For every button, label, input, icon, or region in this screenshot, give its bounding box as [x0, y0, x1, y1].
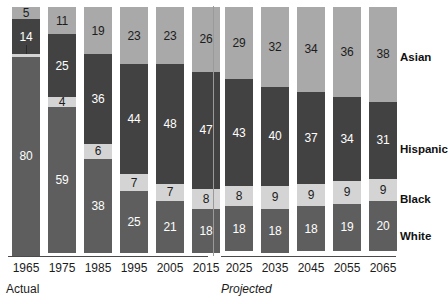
segment-hispanic-2005: 48: [156, 64, 184, 184]
segment-asian-2025: 29: [225, 7, 253, 79]
bar-2065: 3831920: [369, 7, 397, 256]
segment-white-1995: 25: [120, 191, 148, 253]
segment-hispanic-2045: 37: [297, 92, 325, 184]
x-tick-2065: 2065: [363, 261, 403, 275]
value-label: 25: [56, 60, 69, 72]
segment-hispanic-1995: 44: [120, 64, 148, 174]
value-label: 43: [233, 127, 246, 139]
value-label: 7: [167, 186, 173, 198]
actual-projected-divider: [213, 6, 214, 256]
x-tick-1965: 1965: [6, 261, 46, 275]
value-label: 23: [164, 30, 177, 42]
value-label: 20: [377, 220, 390, 232]
segment-asian-1995: 23: [120, 7, 148, 64]
value-label: 18: [233, 223, 246, 235]
segment-asian-2055: 36: [333, 7, 361, 97]
segment-asian-2065: 38: [369, 7, 397, 102]
value-label: 19: [341, 221, 354, 233]
value-label: 18: [305, 223, 318, 235]
section-label-projected: Projected: [221, 282, 272, 296]
segment-hispanic-2055: 34: [333, 97, 361, 182]
segment-white-1985: 38: [84, 159, 112, 254]
x-tick-1995: 1995: [114, 261, 154, 275]
segment-white-2055: 19: [333, 204, 361, 251]
x-tick-1985: 1985: [78, 261, 118, 275]
segment-black-2045: 9: [297, 184, 325, 206]
legend-item-black: Black: [400, 193, 431, 205]
legend-item-asian: Asian: [400, 51, 431, 63]
bar-2045: 3437918: [297, 7, 325, 256]
value-label: 26: [200, 33, 213, 45]
segment-black-2025: 8: [225, 186, 253, 206]
value-label: 14: [20, 31, 33, 43]
value-label: 36: [341, 46, 354, 58]
plot-area: 5148011254591936638234472523487212647818…: [0, 0, 448, 304]
value-label: 9: [344, 186, 350, 198]
segment-white-2045: 18: [297, 206, 325, 251]
value-label: 47: [200, 124, 213, 136]
stacked-bar-chart: 5148011254591936638234472523487212647818…: [0, 0, 448, 304]
x-tick-2035: 2035: [255, 261, 295, 275]
x-tick-2025: 2025: [219, 261, 259, 275]
value-label: 40: [269, 130, 282, 142]
value-label: 25: [128, 216, 141, 228]
segment-black-2055: 9: [333, 181, 361, 203]
segment-asian-1965: 5: [12, 7, 40, 19]
segment-hispanic-1975: 25: [48, 34, 76, 96]
value-label: 9: [380, 184, 386, 196]
segment-white-1965: 80: [12, 57, 40, 256]
value-label: 23: [128, 30, 141, 42]
value-label: 38: [377, 48, 390, 60]
value-label: 9: [272, 191, 278, 203]
bar-2035: 3240918: [261, 7, 289, 256]
value-label: 38: [92, 200, 105, 212]
segment-asian-1975: 11: [48, 7, 76, 34]
segment-asian-2045: 34: [297, 7, 325, 92]
value-label: 5: [23, 7, 29, 19]
segment-black-2015: 8: [192, 189, 220, 209]
value-label: 8: [203, 193, 209, 205]
segment-black-1995: 7: [120, 174, 148, 191]
segment-black-1985: 6: [84, 144, 112, 159]
value-label: 7: [131, 177, 137, 189]
value-label: 48: [164, 118, 177, 130]
segment-black-2005: 7: [156, 184, 184, 201]
segment-white-2025: 18: [225, 206, 253, 251]
bar-2055: 3634919: [333, 7, 361, 256]
x-axis-line-projected: [221, 256, 396, 257]
bar-1975: 1125459: [48, 7, 76, 256]
segment-white-2005: 21: [156, 201, 184, 253]
x-axis-line-actual: [8, 256, 208, 257]
segment-white-2035: 18: [261, 209, 289, 254]
segment-white-1975: 59: [48, 107, 76, 254]
segment-black-1975: 4: [48, 97, 76, 107]
value-label: 29: [233, 37, 246, 49]
value-label: 21: [164, 221, 177, 233]
segment-asian-2005: 23: [156, 7, 184, 64]
value-label: 59: [56, 174, 69, 186]
bar-1965: 51480: [12, 7, 40, 256]
segment-asian-2015: 26: [192, 7, 220, 72]
segment-black-2065: 9: [369, 179, 397, 201]
segment-hispanic-1985: 36: [84, 54, 112, 144]
segment-hispanic-2035: 40: [261, 87, 289, 187]
value-label: 9: [308, 189, 314, 201]
x-tick-2005: 2005: [150, 261, 190, 275]
segment-hispanic-2065: 31: [369, 102, 397, 179]
legend-item-white: White: [400, 230, 431, 242]
segment-black-2035: 9: [261, 186, 289, 208]
section-label-actual: Actual: [6, 282, 39, 296]
value-label: 80: [20, 150, 33, 162]
segment-white-2015: 18: [192, 209, 220, 254]
value-label: 18: [269, 225, 282, 237]
x-tick-2045: 2045: [291, 261, 331, 275]
legend-item-hispanic: Hispanic: [400, 143, 448, 155]
segment-hispanic-2015: 47: [192, 72, 220, 189]
value-label: 18: [200, 225, 213, 237]
bar-2015: 2647818: [192, 7, 220, 256]
segment-white-2065: 20: [369, 201, 397, 251]
value-label: 37: [305, 132, 318, 144]
leader-tick-icon: [26, 45, 27, 54]
value-label: 19: [92, 25, 105, 37]
segment-asian-1985: 19: [84, 7, 112, 54]
